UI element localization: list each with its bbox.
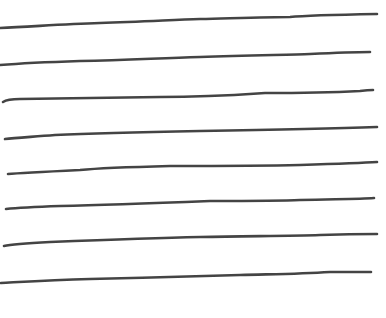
ruled-line-7 [4, 234, 377, 246]
ruled-line-8 [1, 272, 371, 283]
ruled-line-3 [3, 90, 373, 102]
ruled-line-5 [8, 162, 377, 174]
ruled-line-6 [6, 198, 374, 209]
ruled-line-4 [5, 127, 377, 139]
ruled-line-1 [0, 14, 377, 28]
lines-drawing [0, 0, 386, 318]
lined-paper [0, 0, 386, 318]
ruled-line-2 [0, 52, 370, 65]
